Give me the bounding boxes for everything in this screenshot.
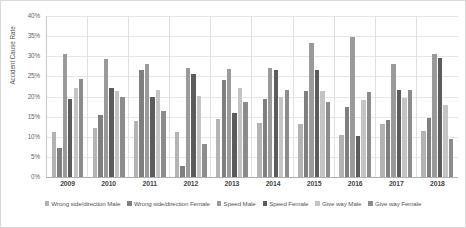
legend-label: Speed Male [224,200,256,207]
bar [345,107,349,177]
bar [315,70,319,177]
y-axis-tick-label: 25% [0,72,40,80]
bar [202,144,206,177]
y-axis-tick-label: 15% [0,113,40,121]
bar-group [294,16,335,177]
bar [268,68,272,177]
legend-item[interactable]: Wrong side/direction Male [45,200,121,207]
bar [93,128,97,178]
y-axis-tick-label: 5% [0,153,40,161]
bar-group [335,16,376,177]
bar [238,88,242,177]
x-axis-tick-label: 2018 [417,180,458,192]
bar [298,124,302,177]
legend-swatch-icon [263,201,268,206]
legend-swatch-icon [315,201,320,206]
bar [257,123,261,177]
legend-item[interactable]: Wrong side/direction Female [127,200,210,207]
bar [175,132,179,177]
bar [361,100,365,177]
bar [145,64,149,178]
bar [63,54,67,177]
x-axis-tick-label: 2014 [252,180,293,192]
gridline [47,177,458,178]
legend-label: Give way Female [375,200,421,207]
bar [263,99,267,177]
bar [115,91,119,177]
legend-item[interactable]: Speed Male [217,200,256,207]
x-axis-tick-label: 2009 [47,180,88,192]
bar [156,90,160,177]
bar-group [417,16,458,177]
bar [98,115,102,177]
bar [186,68,190,177]
y-axis-tick-label: 30% [0,52,40,60]
bar [339,135,343,177]
x-axis-tick-label: 2010 [88,180,129,192]
bar [274,70,278,177]
legend-label: Wrong side/direction Male [51,200,120,207]
x-axis: 2009201020112012201320142015201620172018 [47,180,458,192]
bar-group [376,16,417,177]
bar-groups [47,16,458,177]
bar [74,88,78,177]
y-axis-tick-label: 20% [0,93,40,101]
bar [356,136,360,177]
bar-group [170,16,211,177]
bar [320,91,324,177]
bar [57,148,61,177]
bar [243,102,247,177]
chart-legend: Wrong side/direction MaleWrong side/dire… [0,200,466,207]
bar [427,118,431,177]
bar [109,88,113,177]
legend-item[interactable]: Give way Female [368,200,421,207]
legend-label: Wrong side/direction Female [134,200,210,207]
bar [222,80,226,177]
bar [386,120,390,177]
legend-swatch-icon [45,201,50,206]
bar [304,91,308,177]
x-axis-tick-label: 2011 [129,180,170,192]
x-axis-tick-label: 2017 [376,180,417,192]
bar [150,97,154,178]
bar [326,102,330,177]
bar [197,96,201,177]
bar [350,37,354,177]
bar [449,139,453,177]
bar [438,58,442,177]
legend-swatch-icon [368,201,373,206]
bar [134,121,138,177]
bar [421,131,425,177]
bar [367,92,371,177]
bar-group [129,16,170,177]
bar [216,119,220,177]
bar [52,132,56,177]
bar [432,54,436,177]
x-axis-tick-label: 2013 [211,180,252,192]
legend-item[interactable]: Speed Female [263,200,309,207]
bar-group [47,16,88,177]
bar [79,79,83,177]
y-axis: 40%35%30%25%20%15%10%5%0% [0,10,44,184]
bar-group [252,16,293,177]
bar [191,74,195,177]
x-axis-tick-label: 2015 [294,180,335,192]
bar-group [211,16,252,177]
legend-label: Give way Male [322,200,361,207]
bar [309,43,313,177]
bar-group [88,16,129,177]
bar [443,105,447,177]
y-axis-tick-label: 35% [0,32,40,40]
bar [285,90,289,177]
legend-swatch-icon [127,201,132,206]
x-axis-tick-label: 2012 [170,180,211,192]
legend-item[interactable]: Give way Male [315,200,361,207]
y-axis-tick-label: 10% [0,133,40,141]
bar [380,124,384,177]
x-axis-tick-label: 2016 [335,180,376,192]
bar [120,97,124,177]
legend-label: Speed Female [269,200,308,207]
legend-swatch-icon [217,201,222,206]
bar [104,59,108,177]
y-axis-tick-label: 0% [0,173,40,181]
